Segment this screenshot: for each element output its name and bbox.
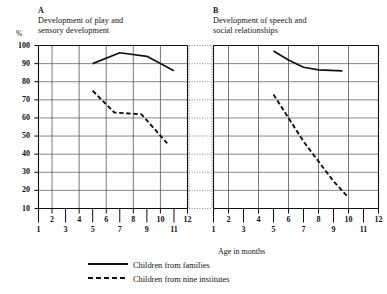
x-axis-tick-label-odd: 9: [141, 225, 153, 234]
y-axis-tick-label: 40: [8, 149, 30, 158]
x-axis-tick-label-even: 6: [100, 215, 112, 224]
series-a-institutes: [93, 91, 167, 144]
series-b-institutes: [274, 94, 349, 197]
x-axis-tick-label-odd: 3: [60, 225, 72, 234]
x-axis-tick-label-even: 4: [253, 215, 265, 224]
x-axis-tick-label-even: 8: [127, 215, 139, 224]
x-axis-tick-label-odd: 11: [358, 225, 370, 234]
x-axis-tick-label-odd: 7: [298, 225, 310, 234]
y-axis-tick-label: 70: [8, 95, 30, 104]
x-axis-tick-label-odd: 1: [33, 225, 45, 234]
x-axis-tick-label-odd: 11: [168, 225, 180, 234]
x-axis-tick-label-even: 2: [46, 215, 58, 224]
x-axis-tick-label-even: 12: [373, 215, 385, 224]
y-axis-tick-label: 90: [8, 59, 30, 68]
x-axis-tick-label-even: 4: [73, 215, 85, 224]
x-axis-tick-label-even: 8: [313, 215, 325, 224]
x-axis-tick-label-odd: 5: [87, 225, 99, 234]
x-axis-tick-label-even: 2: [223, 215, 235, 224]
y-axis-tick-label: 80: [8, 77, 30, 86]
x-axis-tick-label-even: 6: [283, 215, 295, 224]
y-axis-tick-label: 10: [8, 204, 30, 213]
x-axis-tick-label-odd: 5: [268, 225, 280, 234]
x-axis-tick-label-even: 12: [182, 215, 194, 224]
series-b-families: [274, 51, 343, 71]
x-axis-tick-label-odd: 3: [238, 225, 250, 234]
x-axis-tick-label-odd: 7: [114, 225, 126, 234]
x-axis-tick-label-even: 10: [154, 215, 166, 224]
x-axis-tick-label-even: 10: [343, 215, 355, 224]
x-axis-tick-label-odd: 1: [208, 225, 220, 234]
figure-root: A Development of play and sensory develo…: [0, 0, 387, 294]
chart-canvas: [0, 0, 387, 294]
y-axis-tick-label: 50: [8, 131, 30, 140]
y-axis-tick-label: 60: [8, 113, 30, 122]
y-axis-tick-label: 20: [8, 185, 30, 194]
x-axis-tick-label-odd: 9: [328, 225, 340, 234]
y-axis-tick-label: 30: [8, 167, 30, 176]
y-axis-tick-label: 100: [8, 41, 30, 50]
